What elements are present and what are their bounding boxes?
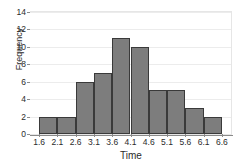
histogram-bar	[185, 108, 203, 134]
gridline	[30, 29, 231, 30]
y-tick-label: 14	[17, 8, 26, 17]
y-tick-label: 4	[21, 95, 26, 104]
histogram-bar	[149, 90, 167, 134]
y-tick-label: 10	[17, 43, 26, 52]
y-tick-mark	[27, 134, 30, 135]
x-tick-label: 1.6	[33, 138, 45, 147]
gridline	[30, 12, 231, 13]
y-tick-label: 0	[21, 130, 26, 139]
x-tick-label: 2.6	[70, 138, 82, 147]
x-axis-title: Time	[28, 150, 234, 161]
y-tick-label: 6	[21, 77, 26, 86]
y-tick-label: 12	[17, 25, 26, 34]
y-tick-mark	[27, 12, 30, 13]
x-tick-label: 3.6	[106, 138, 118, 147]
histogram-bar	[167, 90, 185, 134]
x-tick-label: 4.1	[125, 138, 137, 147]
y-tick-mark	[27, 82, 30, 83]
histogram-bar	[94, 73, 112, 134]
y-tick-mark	[27, 64, 30, 65]
y-tick-label: 8	[21, 60, 26, 69]
histogram-bar	[204, 117, 222, 134]
y-tick-mark	[27, 29, 30, 30]
x-tick-label: 4.6	[143, 138, 155, 147]
y-tick-mark	[27, 99, 30, 100]
histogram-bar	[112, 38, 130, 134]
x-tick-label: 5.6	[179, 138, 191, 147]
y-tick-mark	[27, 47, 30, 48]
x-tick-label: 2.1	[51, 138, 63, 147]
y-tick-mark	[27, 117, 30, 118]
histogram-bar	[57, 117, 75, 134]
x-tick-label: 5.1	[161, 138, 173, 147]
histogram-bar	[131, 47, 149, 134]
y-tick-label: 2	[21, 112, 26, 121]
plot-area: 02468101214 1.62.12.63.13.64.14.65.15.66…	[30, 11, 232, 135]
x-tick-label: 6.1	[198, 138, 210, 147]
histogram-bar	[76, 82, 94, 134]
x-tick-label: 6.6	[216, 138, 228, 147]
histogram-bar	[39, 117, 57, 134]
x-tick-label: 3.1	[88, 138, 100, 147]
histogram-chart: Frequency 02468101214 1.62.12.63.13.64.1…	[0, 0, 238, 166]
